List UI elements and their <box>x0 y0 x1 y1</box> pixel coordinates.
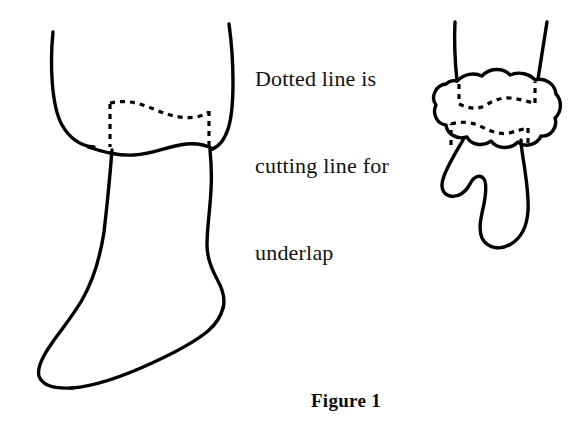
gathered-cuff-blob <box>434 69 561 147</box>
cuff-wavy-band-line <box>88 144 213 155</box>
annotation-text: Dotted line is cutting line for underlap <box>255 6 445 325</box>
annotation-line-3: underlap <box>255 238 445 267</box>
cuff-left-edge <box>52 32 94 147</box>
gathered-cuff-tail-right <box>538 22 547 79</box>
annotation-line-1: Dotted line is <box>255 64 445 93</box>
gathered-cut-upper-wave <box>459 98 535 108</box>
annotation-line-2: cutting line for <box>255 151 445 180</box>
sock-left-contour <box>39 150 112 388</box>
gathered-foot-contour <box>442 140 528 248</box>
figure-caption-label: Figure 1 <box>311 390 381 412</box>
cutting-line-wave <box>110 102 209 118</box>
gathered-cut-lower-wave <box>451 122 528 133</box>
figure-caption: Figure 1 <box>0 390 588 412</box>
gathered-cuff-tail-left <box>455 22 457 81</box>
left-sock-drawing <box>39 24 233 388</box>
cuff-right-edge <box>212 24 233 149</box>
sock-sole-contour <box>72 308 223 388</box>
sock-right-contour <box>207 150 224 308</box>
right-sock-drawing <box>434 22 561 248</box>
figure-container: Dotted line is cutting line for underlap… <box>0 0 588 430</box>
left-cutting-line-dashed <box>110 102 209 147</box>
